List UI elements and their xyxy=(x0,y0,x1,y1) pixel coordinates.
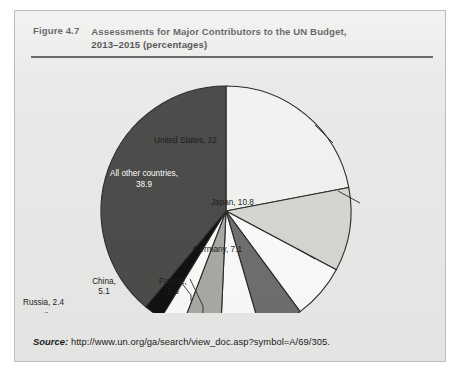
figure-panel: Figure 4.7 Assessments for Major Contrib… xyxy=(14,10,446,362)
figure-title-block: Figure 4.7 Assessments for Major Contrib… xyxy=(33,25,431,51)
source-url: http://www.un.org/ga/search/view_doc.asp… xyxy=(71,336,330,347)
page-title: Assessments for Major Contributors to th… xyxy=(91,25,346,51)
figure-number: Figure 4.7 xyxy=(33,25,79,36)
pie-label-france-line-2: 5.6 xyxy=(167,287,179,296)
source-label: Source: xyxy=(33,336,68,347)
pie-label-brazil: Brazil, 2.9 xyxy=(28,312,65,313)
figure-title-line-2: 2013–2015 (percentages) xyxy=(91,39,207,50)
pie-label-all-other-countries-line-1: All other countries, xyxy=(110,169,178,178)
pie-label-germany: Germany, 7.1 xyxy=(193,245,242,254)
figure-title-line-1: Assessments for Major Contributors to th… xyxy=(91,26,346,37)
figure-container: Figure 4.7 Assessments for Major Contrib… xyxy=(0,0,458,372)
pie-chart: United States, 22 Japan, 10.8 Germany, 7… xyxy=(15,63,445,313)
pie-label-all-other-countries-line-2: 38.9 xyxy=(136,180,152,189)
pie-label-united-states: United States, 22 xyxy=(154,136,217,145)
pie-label-china-line-1: China, xyxy=(92,277,116,286)
source-line: Source: http://www.un.org/ga/search/view… xyxy=(33,336,330,347)
pie-chart-svg: United States, 22 Japan, 10.8 Germany, 7… xyxy=(15,63,445,313)
title-divider xyxy=(31,56,433,58)
pie-label-france-line-1: France, xyxy=(159,277,187,286)
pie-label-china-line-2: 5.1 xyxy=(98,287,110,296)
pie-label-japan: Japan, 10.8 xyxy=(211,198,254,207)
pie-label-russia: Russia, 2.4 xyxy=(23,298,64,307)
title-row: Figure 4.7 Assessments for Major Contrib… xyxy=(33,25,431,51)
